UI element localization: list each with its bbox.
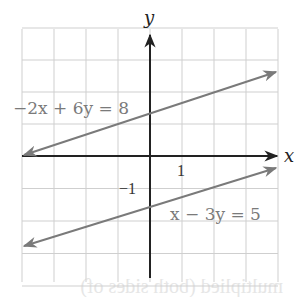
y-axis-label: y [143,7,155,28]
equation-label-1: −2x + 6y = 8 [13,98,129,118]
equation-label-2: x − 3y = 5 [170,204,261,224]
x-axis-label: x [284,145,294,166]
graph: multiplied (both sides of) y x 1 −1 −2x … [0,0,303,297]
tick-label-y-neg1: −1 [119,180,136,197]
tick-label-x-1: 1 [177,162,185,179]
